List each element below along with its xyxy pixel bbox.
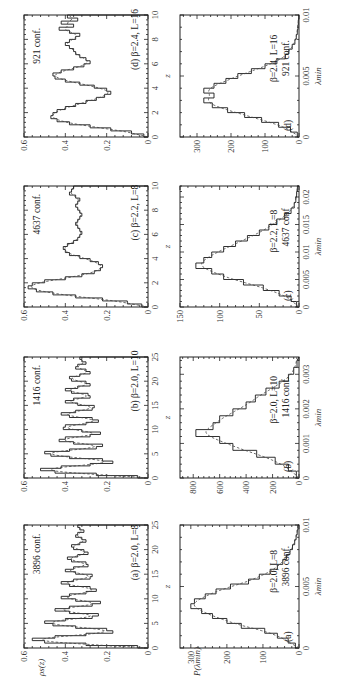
fit-curve-dashed [209,15,300,137]
x-axis-label: λmin [313,67,323,86]
x-tick-label: 2 [150,281,160,285]
y-tick-label: 0.6 [19,651,29,662]
y-tick-label: 0.6 [19,310,29,321]
x-axis-label: z [162,415,172,420]
x-axis-label: z [162,244,172,249]
x-axis-label: z [162,74,172,79]
x-axis-label: z [162,584,172,589]
plot-frame [180,186,299,307]
x-axis-label: λmin [313,408,323,427]
x-tick-label: 10 [150,425,160,434]
x-tick-label: 0.005 [301,270,311,289]
x-tick-label: 2 [150,110,160,114]
x-tick-label: 0 [301,135,311,139]
x-tick-label: 0.01 [301,518,311,533]
x-tick-label: 10 [150,11,160,20]
panel-label: (c) [283,290,294,301]
x-tick-label: 5 [150,452,160,456]
x-tick-label: 0.01 [301,245,311,260]
y-tick-label: 0.4 [60,650,70,661]
y-tick-label: 0.4 [60,480,70,491]
x-tick-label: 0.005 [301,66,311,85]
x-tick-label: 0 [301,476,311,480]
plot-frame [180,15,299,137]
panel-label: (d) [283,120,294,131]
panel-c-pmin: 00.0050.010.0150.02050100150(c)β=2.2, L=… [175,186,323,323]
figure-rotated: 051015202500.20.40.6(a) β=2.0, L=83896 c… [0,0,342,695]
histogram-series [196,357,299,478]
x-tick-label: 0.02 [301,190,311,205]
x-tick-label: 4 [150,256,160,261]
config-count: 4637 conf [281,207,291,246]
panel-b-pmin: 00.0010.0020.0030200400600800(b)β=2.0, L… [180,357,323,494]
x-tick-label: 25 [150,353,160,362]
y-tick-label: 150 [175,310,185,323]
x-axis-label: λmin [313,237,323,256]
fit-curve-dashed [202,186,299,307]
x-tick-label: 8 [150,37,160,41]
panel-a-pmin: 00.0050.010100200300(a)β=2.0, L=83896 co… [180,518,323,677]
y-tick-label: 0.6 [19,481,29,492]
x-axis-label: λmin [313,577,323,596]
x-tick-label: 0 [301,646,311,650]
x-tick-label: 0 [150,646,160,650]
panel-label: (a) [283,631,294,642]
histogram-series [204,15,299,137]
x-tick-label: 0.015 [301,215,311,234]
panel-params: β=2.2, L=8 [269,210,279,253]
y-tick-label: 600 [215,481,225,494]
x-tick-label: 10 [150,595,160,604]
config-count: 3896 conf. [32,534,42,575]
x-tick-label: 15 [150,570,160,579]
panel-label: (a) β=2.0, L=8 [130,524,141,580]
panel-params: β=2.0, L=10 [269,376,279,424]
y-tick-label: 0 [294,140,304,144]
x-tick-label: 0.01 [301,8,311,23]
y-tick-label: 0.2 [102,310,112,321]
panel-label: (b) β=2.0, L=10 [130,350,141,411]
config-count: 921 conf. [281,40,291,76]
y-tick-label: 0 [294,310,304,314]
y-tick-label: 100 [215,310,225,323]
x-tick-label: 20 [150,545,160,554]
x-tick-label: 0.002 [301,399,311,418]
y-tick-label: 0.6 [19,140,29,151]
x-tick-label: 0.001 [301,434,311,453]
y-tick-label: 100 [260,140,270,153]
y-tick-label: 0 [143,481,153,485]
config-count: 3896 conf. [281,546,291,587]
x-tick-label: 0.005 [301,577,311,596]
x-tick-label: 8 [150,208,160,212]
panel-params: β=2.4, L=16 [269,34,279,82]
y-tick-label: 0.4 [60,309,70,320]
x-tick-label: 25 [150,521,160,530]
x-tick-label: 10 [150,182,160,191]
x-tick-label: 0 [150,135,160,139]
config-count: 1416 conf. [281,377,291,418]
y-tick-label: 200 [222,651,232,664]
histogram-series [191,525,299,648]
y-tick-label: 0.2 [102,651,112,662]
x-tick-label: 6 [150,62,160,66]
x-tick-label: 0.003 [301,365,311,384]
x-tick-label: 15 [150,401,160,410]
y-tick-label: 300 [192,140,202,153]
y-tick-label: 800 [188,481,198,494]
y-tick-label: 50 [254,310,264,319]
panel-a-rho: 051015202500.20.40.6(a) β=2.0, L=83896 c… [19,521,172,677]
plot-frame [180,357,299,478]
y-tick-label: 0 [143,651,153,655]
panel-d-rho: 024681000.20.40.6(d) β=2.4, L=16921 conf… [19,9,172,151]
y-axis-label: ρs(z) [36,659,46,677]
y-axis-label: P(λmin) [192,647,202,677]
x-tick-label: 0 [301,305,311,309]
y-tick-label: 100 [258,651,268,664]
config-count: 4637 conf. [32,194,42,235]
x-tick-label: 4 [150,85,160,90]
histogram-series [196,186,299,307]
panel-d-pmin: 00.0050.010100200300(d)β=2.4, L=16921 co… [180,8,323,153]
config-count: 1416 conf. [32,365,42,406]
panel-label: (d) β=2.4, L=16 [130,9,141,70]
x-tick-label: 5 [150,621,160,625]
y-tick-label: 0.2 [102,481,112,492]
